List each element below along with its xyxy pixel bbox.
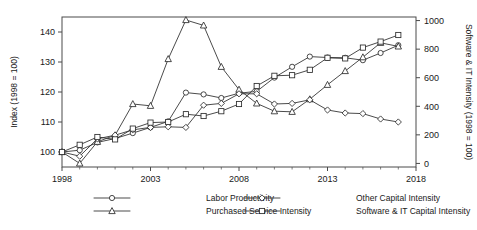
y-axis-title: Index (1998 = 100)	[9, 56, 19, 128]
y2-axis-title: Software & IT Intensity (1998 = 100)	[464, 24, 474, 160]
data-point	[342, 110, 348, 116]
y2-axis-tick-label: 200	[424, 130, 439, 140]
y2-axis-tick-label: 800	[424, 44, 439, 54]
data-point	[342, 68, 348, 74]
series-line	[62, 94, 398, 156]
series-triangle	[59, 17, 402, 166]
data-point	[95, 134, 100, 139]
data-point	[201, 92, 206, 97]
chart-legend: Labor ProductivityOther Capital Intensit…	[94, 193, 471, 216]
legend-label: Other Capital Intensity	[356, 193, 441, 203]
data-point	[360, 54, 366, 60]
x-axis-tick-label: 2003	[140, 174, 160, 184]
series-diamond	[59, 91, 402, 160]
data-point	[254, 83, 259, 88]
y-axis-tick-label: 100	[40, 147, 55, 157]
legend-marker	[109, 195, 114, 200]
data-point	[219, 109, 224, 114]
data-point	[307, 67, 312, 72]
data-point	[59, 149, 64, 154]
data-point	[395, 119, 401, 125]
x-axis-tick-label: 2013	[317, 174, 337, 184]
legend-label: Software & IT Capital Intensity	[356, 206, 471, 216]
y2-axis-tick-label: 1000	[424, 16, 444, 26]
data-point	[378, 50, 383, 55]
x-axis-tick-label: 2008	[229, 174, 249, 184]
data-point	[324, 81, 330, 87]
data-point	[378, 39, 383, 44]
line-chart: 1998200320082013201810011012013014002004…	[0, 0, 477, 230]
data-point	[183, 112, 188, 117]
y-axis-tick-label: 120	[40, 87, 55, 97]
y2-axis-tick-label: 0	[424, 159, 429, 169]
data-point	[290, 64, 295, 69]
data-point	[218, 100, 224, 106]
data-point	[325, 55, 330, 60]
data-point	[396, 32, 401, 37]
data-point	[343, 56, 348, 61]
y2-axis-tick-label: 400	[424, 102, 439, 112]
data-point	[254, 100, 260, 106]
legend-marker	[259, 208, 264, 213]
data-point	[166, 119, 171, 124]
data-point	[271, 101, 277, 107]
x-axis-tick-label: 2018	[406, 174, 426, 184]
data-point	[218, 63, 224, 69]
data-point	[290, 73, 295, 78]
data-point	[236, 101, 241, 106]
data-point	[113, 137, 118, 142]
data-point	[289, 100, 295, 106]
y-axis-tick-label: 130	[40, 57, 55, 67]
data-point	[271, 108, 277, 114]
y2-axis-tick-label: 600	[424, 73, 439, 83]
data-point	[307, 54, 312, 59]
data-point	[130, 126, 135, 131]
data-point	[77, 142, 82, 147]
data-point	[148, 120, 153, 125]
y-axis-tick-label: 140	[40, 27, 55, 37]
data-point	[378, 116, 384, 122]
data-point	[165, 56, 171, 62]
data-point	[324, 107, 330, 113]
data-point	[201, 113, 206, 118]
chart-container: 1998200320082013201810011012013014002004…	[0, 0, 477, 230]
data-point	[77, 148, 82, 153]
data-point	[360, 45, 365, 50]
data-point	[272, 73, 277, 78]
y-axis-tick-label: 110	[41, 117, 55, 127]
data-point	[130, 101, 136, 107]
data-point	[183, 90, 188, 95]
x-axis-tick-label: 1998	[52, 174, 72, 184]
data-point	[360, 111, 366, 117]
